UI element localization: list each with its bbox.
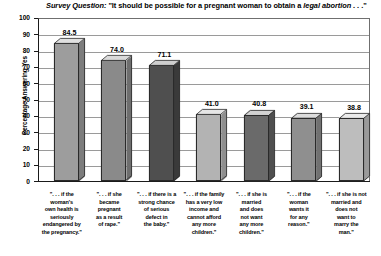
bar-value-label: 40.8 bbox=[237, 100, 281, 108]
y-tick-label: 60 bbox=[4, 80, 30, 87]
bar[interactable] bbox=[149, 60, 180, 181]
category-label-line: own health is bbox=[37, 206, 86, 214]
category-label-line: wants it bbox=[274, 206, 323, 214]
category-label: ". . . if the familyhas a very lowincome… bbox=[179, 191, 228, 237]
category-label-line: want to bbox=[322, 214, 371, 222]
chart-title-question-label: Survey Question: bbox=[46, 1, 106, 10]
y-tick-label: 20 bbox=[4, 145, 30, 152]
category-label-line: any more bbox=[227, 221, 276, 229]
category-label-line: not want bbox=[227, 214, 276, 222]
bar[interactable] bbox=[196, 109, 227, 181]
category-label-line: man." bbox=[322, 229, 371, 237]
gridline bbox=[39, 68, 369, 69]
bar-value-label: 38.8 bbox=[332, 104, 376, 112]
y-tick-label: 90 bbox=[4, 31, 30, 38]
category-label-line: and does bbox=[227, 206, 276, 214]
category-label-line: ". . . if the family bbox=[179, 191, 228, 199]
y-tick-label: 100 bbox=[4, 14, 30, 21]
bar-value-label: 41.0 bbox=[190, 100, 234, 108]
category-label-line: seriously bbox=[37, 214, 86, 222]
category-label-line: of serious bbox=[132, 206, 181, 214]
y-tick-label: 50 bbox=[4, 96, 30, 103]
bar-outline bbox=[101, 55, 132, 182]
category-label-line: children." bbox=[179, 229, 228, 237]
category-label-line: pregnant bbox=[84, 206, 133, 214]
category-label-line: married bbox=[227, 199, 276, 207]
chart-title: Survey Question: "It should be possible … bbox=[46, 1, 378, 10]
category-label: ". . . if thewoman'sown health isserious… bbox=[37, 191, 86, 237]
y-tick-label: 10 bbox=[4, 161, 30, 168]
bar-outline bbox=[244, 110, 275, 183]
category-label-line: became bbox=[84, 199, 133, 207]
bar[interactable] bbox=[244, 110, 275, 182]
category-label-line: ". . . if the bbox=[274, 191, 323, 199]
category-label-line: ". . . if the bbox=[37, 191, 86, 199]
category-label-line: any more bbox=[179, 221, 228, 229]
category-label-line: defect in bbox=[132, 214, 181, 222]
category-label-line: does not bbox=[322, 206, 371, 214]
gridline bbox=[39, 52, 369, 53]
category-label-line: ". . . if she bbox=[84, 191, 133, 199]
category-label-line: of rape." bbox=[84, 221, 133, 229]
category-label-line: has a very low bbox=[179, 199, 228, 207]
chart-title-main-after: . . ." bbox=[351, 1, 366, 10]
bar[interactable] bbox=[339, 113, 370, 181]
category-label-line: endangered by bbox=[37, 221, 86, 229]
category-label-line: woman's bbox=[37, 199, 86, 207]
y-tick-label: 70 bbox=[4, 63, 30, 70]
category-label: ". . . if thewomanwants itfor anyreason.… bbox=[274, 191, 323, 229]
bar-outline bbox=[291, 113, 322, 183]
bar-value-label: 39.1 bbox=[285, 103, 329, 111]
category-label-line: as a result bbox=[84, 214, 133, 222]
y-tick-label: 80 bbox=[4, 47, 30, 54]
category-label-line: the pregnancy." bbox=[37, 229, 86, 237]
bar-outline bbox=[339, 113, 370, 182]
chart-title-main-before: "It should be possible for a pregnant wo… bbox=[106, 1, 303, 10]
bar-value-label: 71.1 bbox=[142, 51, 186, 59]
gridline bbox=[39, 84, 369, 85]
y-tick-label: 0 bbox=[4, 178, 30, 185]
chart-title-emphasis: legal abortion bbox=[303, 1, 351, 10]
category-label-line: for any bbox=[274, 214, 323, 222]
category-label: ". . . if she is notmarried anddoes notw… bbox=[322, 191, 371, 237]
bar[interactable] bbox=[54, 38, 85, 181]
category-label-line: ". . . if she is not bbox=[322, 191, 371, 199]
bar[interactable] bbox=[101, 55, 132, 181]
category-label: ". . . if she ismarriedand doesnot wanta… bbox=[227, 191, 276, 237]
category-label: ". . . if shebecamepregnantas a resultof… bbox=[84, 191, 133, 229]
category-label-line: woman bbox=[274, 199, 323, 207]
bar-outline bbox=[149, 60, 180, 182]
category-label-line: married and bbox=[322, 199, 371, 207]
category-label-line: reason." bbox=[274, 221, 323, 229]
category-label-line: strong chance bbox=[132, 199, 181, 207]
category-label-line: ". . . if she is bbox=[227, 191, 276, 199]
bar-outline bbox=[54, 38, 85, 182]
bar-outline bbox=[196, 109, 227, 182]
category-label-line: income and bbox=[179, 206, 228, 214]
bar-value-label: 74.0 bbox=[95, 46, 139, 54]
y-tick-label: 30 bbox=[4, 129, 30, 136]
bar-value-label: 84.5 bbox=[48, 29, 92, 37]
category-label: ". . . if there is astrong chanceof seri… bbox=[132, 191, 181, 229]
category-label-line: cannot afford bbox=[179, 214, 228, 222]
category-label-line: the baby." bbox=[132, 221, 181, 229]
bar[interactable] bbox=[291, 113, 322, 182]
category-label-line: ". . . if there is a bbox=[132, 191, 181, 199]
category-label-line: children." bbox=[227, 229, 276, 237]
y-tick-label: 40 bbox=[4, 112, 30, 119]
category-label-line: marry the bbox=[322, 221, 371, 229]
